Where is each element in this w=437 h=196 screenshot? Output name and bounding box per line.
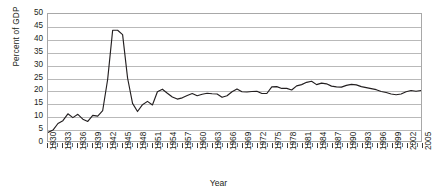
x-axis-tick <box>242 143 243 148</box>
x-axis-tick-label: 1975 <box>275 132 283 150</box>
x-axis-tick-label: 2005 <box>425 132 433 150</box>
x-axis-tick-label: 1981 <box>305 132 313 150</box>
x-axis-tick <box>272 143 273 148</box>
x-axis-tick <box>317 143 318 148</box>
x-axis-tick-label: 1933 <box>65 132 73 150</box>
y-axis-tick-label: 35 <box>17 48 43 56</box>
x-axis-tick-label: 1999 <box>395 132 403 150</box>
x-axis-tick <box>212 143 213 148</box>
y-axis-tick-label: 5 <box>17 125 43 133</box>
x-axis-tick <box>62 143 63 148</box>
x-axis-tick-label: 1945 <box>125 132 133 150</box>
x-axis-tick-label: 1990 <box>350 132 358 150</box>
plot-area <box>47 13 422 142</box>
x-axis-tick-label: 1972 <box>260 132 268 150</box>
y-axis-tick-label: 20 <box>17 86 43 94</box>
x-axis-tick <box>107 143 108 148</box>
x-axis-tick-label: 1987 <box>335 132 343 150</box>
x-axis-tick-label: 1966 <box>230 132 238 150</box>
series-line-federal-spending <box>48 14 421 141</box>
x-axis-tick-label: 1951 <box>155 132 163 150</box>
x-axis-tick <box>182 143 183 148</box>
y-axis-tick-label: 25 <box>17 74 43 82</box>
y-axis-tick-label: 40 <box>17 35 43 43</box>
y-axis-tick-label: 0 <box>17 138 43 146</box>
x-axis-tick-label: 1939 <box>95 132 103 150</box>
x-axis-tick <box>92 143 93 148</box>
x-axis-tick <box>77 143 78 148</box>
y-axis-tick-label: 45 <box>17 22 43 30</box>
x-axis-tick-label: 1942 <box>110 132 118 150</box>
y-axis-tick-label: 10 <box>17 112 43 120</box>
x-axis-tick <box>407 143 408 148</box>
x-axis-tick <box>362 143 363 148</box>
x-axis-tick <box>122 143 123 148</box>
x-axis-tick-label: 1996 <box>380 132 388 150</box>
x-axis-tick <box>257 143 258 148</box>
y-axis-tick-label: 15 <box>17 99 43 107</box>
x-axis-tick-label: 1948 <box>140 132 148 150</box>
x-axis-tick <box>137 143 138 148</box>
x-axis-tick <box>152 143 153 148</box>
y-axis-tick-label: 30 <box>17 61 43 69</box>
x-axis-tick-label: 2002 <box>410 132 418 150</box>
x-axis-tick <box>302 143 303 148</box>
x-axis-tick <box>287 143 288 148</box>
x-axis-tick <box>227 143 228 148</box>
y-axis-tick-label: 50 <box>17 9 43 17</box>
x-axis-tick-label: 1984 <box>320 132 328 150</box>
x-axis-tick-label: 1978 <box>290 132 298 150</box>
x-axis-tick <box>167 143 168 148</box>
chart-container: Percent of GDP 05101520253035404550 1930… <box>0 0 437 196</box>
x-axis-title: Year <box>0 178 437 188</box>
x-axis-tick-label: 1960 <box>200 132 208 150</box>
x-axis-tick-label: 1969 <box>245 132 253 150</box>
x-axis-tick-label: 1936 <box>80 132 88 150</box>
x-axis-tick <box>347 143 348 148</box>
x-axis-tick <box>332 143 333 148</box>
x-axis-tick <box>197 143 198 148</box>
x-axis-tick <box>47 143 48 148</box>
x-axis-tick <box>392 143 393 148</box>
x-axis-tick <box>422 143 423 148</box>
x-axis-tick-label: 1930 <box>50 132 58 150</box>
x-axis-tick-label: 1954 <box>170 132 178 150</box>
x-axis-tick <box>377 143 378 148</box>
x-axis-tick-label: 1993 <box>365 132 373 150</box>
x-axis-tick-label: 1963 <box>215 132 223 150</box>
x-axis-tick-label: 1957 <box>185 132 193 150</box>
